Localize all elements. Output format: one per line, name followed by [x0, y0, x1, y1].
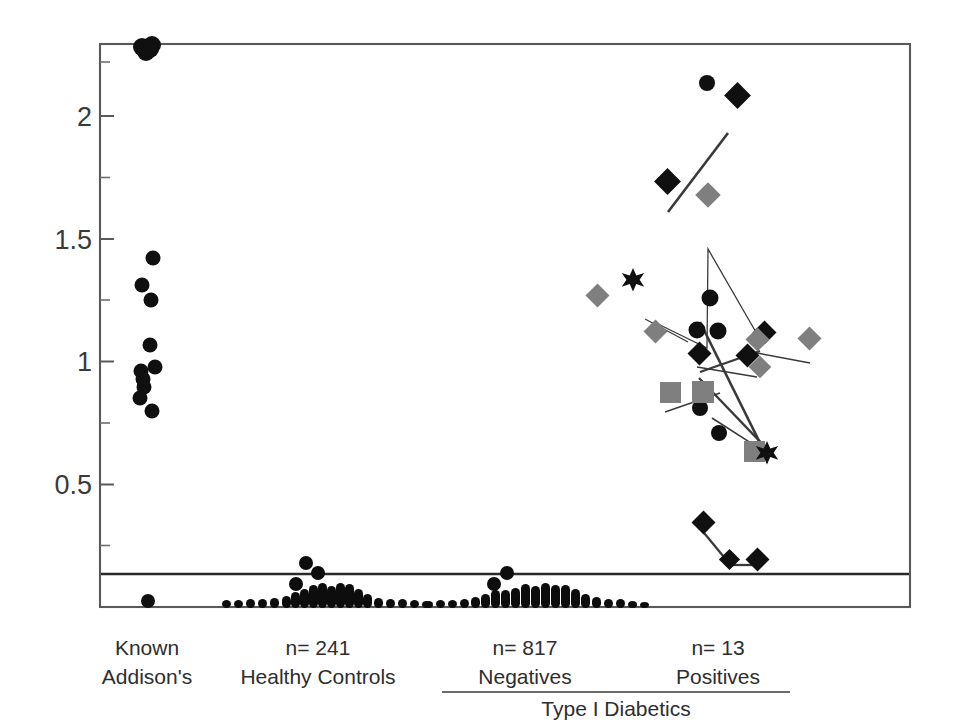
- y-axis-major-ticks: [100, 116, 114, 607]
- ytick-label-0-5: 0.5: [54, 470, 92, 500]
- xlabel-negatives-line2: Negatives: [478, 665, 571, 688]
- xlabel-known-line1: Known: [115, 636, 179, 659]
- positives-markers: [585, 75, 821, 572]
- xlabel-negatives-line1: n= 817: [493, 636, 558, 659]
- scatter-plot: 0.5 1 1.5 2: [0, 0, 959, 722]
- group-negatives-distribution: [424, 566, 649, 608]
- group-known-addisons-points: [133, 36, 163, 608]
- xlabel-positives-line2: Positives: [676, 665, 760, 688]
- xlabel-healthy-line1: n= 241: [286, 636, 351, 659]
- ytick-label-1: 1: [77, 347, 92, 377]
- ytick-label-2: 2: [77, 102, 92, 132]
- group-healthy-controls-distribution: [222, 556, 431, 608]
- plot-frame: [100, 44, 910, 607]
- xlabel-known-line2: Addison's: [102, 665, 192, 688]
- y-axis-minor-ticks: [100, 62, 110, 546]
- ytick-label-1-5: 1.5: [54, 225, 92, 255]
- xlabel-healthy-line2: Healthy Controls: [240, 665, 395, 688]
- xlabel-type1-diabetics: Type I Diabetics: [541, 697, 690, 720]
- figure-container: 0.5 1 1.5 2: [0, 0, 959, 722]
- xlabel-positives-line1: n= 13: [691, 636, 744, 659]
- positives-connector-lines: [645, 133, 810, 565]
